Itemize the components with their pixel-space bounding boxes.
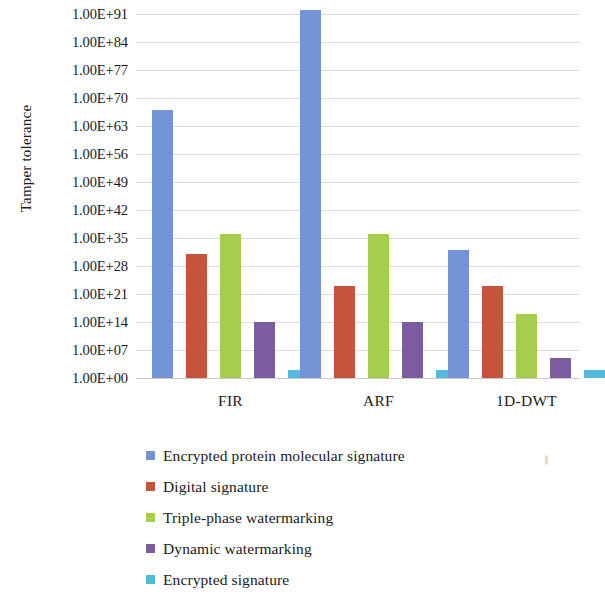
y-axis-tick-label: 1.00E+00	[22, 371, 128, 386]
y-axis-tick-labels: 1.00E+911.00E+841.00E+771.00E+701.00E+63…	[22, 0, 128, 392]
y-axis-tick-label: 1.00E+77	[22, 63, 128, 78]
legend-swatch-icon	[146, 513, 155, 522]
legend-item[interactable]: Encrypted signature	[146, 564, 566, 595]
legend-label: Digital signature	[163, 478, 268, 496]
legend-label: Encrypted protein molecular signature	[163, 447, 405, 465]
x-axis-baseline	[136, 378, 580, 379]
y-axis-tick-label: 1.00E+63	[22, 119, 128, 134]
bar	[334, 286, 355, 378]
bar	[550, 358, 571, 378]
y-axis-tick-label: 1.00E+35	[22, 231, 128, 246]
bar-group-fir	[152, 14, 309, 378]
legend-swatch-icon	[146, 482, 155, 491]
bar	[516, 314, 537, 378]
y-axis-tick-label: 1.00E+91	[22, 7, 128, 22]
x-axis-label-arf: ARF	[363, 392, 394, 410]
bar	[584, 370, 605, 378]
y-axis-tick-label: 1.00E+07	[22, 343, 128, 358]
y-axis-tick-label: 1.00E+84	[22, 35, 128, 50]
legend-item[interactable]: Encrypted protein molecular signature	[146, 440, 566, 471]
x-axis-label-1d-dwt: 1D-DWT	[496, 392, 557, 410]
scan-artifact	[545, 455, 548, 465]
bar	[152, 110, 173, 378]
y-axis-tick-label: 1.00E+49	[22, 175, 128, 190]
bar	[220, 234, 241, 378]
bar	[368, 234, 389, 378]
legend-swatch-icon	[146, 575, 155, 584]
x-axis-label-fir: FIR	[218, 392, 243, 410]
legend-label: Encrypted signature	[163, 571, 289, 589]
y-axis-tick-label: 1.00E+14	[22, 315, 128, 330]
legend-swatch-icon	[146, 544, 155, 553]
y-axis-tick-label: 1.00E+42	[22, 203, 128, 218]
bar-group-arf	[300, 14, 457, 378]
legend-item[interactable]: Digital signature	[146, 471, 566, 502]
bar	[482, 286, 503, 378]
bar	[186, 254, 207, 378]
legend-label: Triple-phase watermarking	[163, 509, 333, 527]
x-axis-category-labels: FIRARF1D-DWT	[136, 392, 580, 418]
y-axis-tick-label: 1.00E+56	[22, 147, 128, 162]
bar	[300, 10, 321, 378]
legend-item[interactable]: Triple-phase watermarking	[146, 502, 566, 533]
bar	[402, 322, 423, 378]
y-axis-tick-label: 1.00E+21	[22, 287, 128, 302]
y-axis-tick-label: 1.00E+70	[22, 91, 128, 106]
legend-item[interactable]: Dynamic watermarking	[146, 533, 566, 564]
plot-area	[136, 14, 580, 378]
bar	[254, 322, 275, 378]
bar	[448, 250, 469, 378]
chart-legend: Encrypted protein molecular signatureDig…	[146, 440, 566, 595]
bar-group-1d-dwt	[448, 14, 605, 378]
y-axis-tick-label: 1.00E+28	[22, 259, 128, 274]
legend-label: Dynamic watermarking	[163, 540, 312, 558]
legend-swatch-icon	[146, 451, 155, 460]
